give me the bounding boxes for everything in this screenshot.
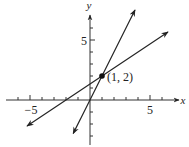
chart-canvas: −5 5 x 5 y (1, 2) xyxy=(0,0,189,147)
x-axis: −5 5 x xyxy=(6,94,186,117)
point-label: (1, 2) xyxy=(107,70,133,84)
x-axis-label: x xyxy=(180,94,186,106)
y-axis: 5 y xyxy=(81,0,95,145)
intersection-point xyxy=(99,73,105,79)
y-tick-label-5: 5 xyxy=(81,34,87,48)
x-tick-label-neg5: −5 xyxy=(25,103,38,117)
x-tick-label-5: 5 xyxy=(147,103,153,117)
y-axis-label: y xyxy=(86,0,92,11)
